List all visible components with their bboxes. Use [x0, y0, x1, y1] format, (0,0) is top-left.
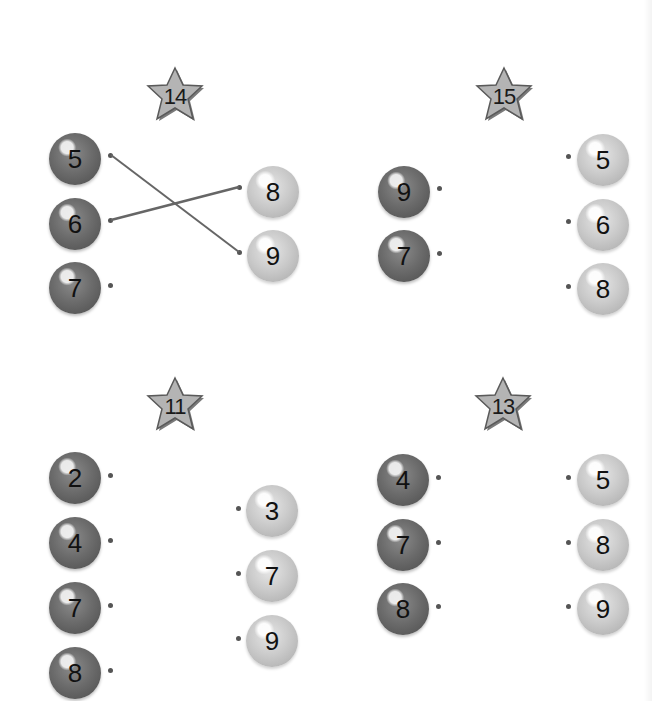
worksheet-page: 14 5 6 7 8 9 15 9 7 5 6 8 11 2 4 7	[0, 0, 652, 701]
target-star-11: 11	[143, 374, 207, 434]
left-dot[interactable]	[436, 475, 441, 480]
left-ball-7[interactable]: 7	[377, 519, 429, 571]
left-dot[interactable]	[108, 473, 113, 478]
right-ball-9[interactable]: 9	[246, 615, 298, 667]
left-ball-7[interactable]: 7	[49, 262, 101, 314]
target-star-13: 13	[471, 374, 535, 434]
right-ball-8[interactable]: 8	[577, 519, 629, 571]
left-ball-7[interactable]: 7	[378, 230, 430, 282]
left-dot[interactable]	[108, 603, 113, 608]
left-dot[interactable]	[436, 604, 441, 609]
right-dot[interactable]	[566, 475, 571, 480]
right-dot[interactable]	[236, 571, 241, 576]
right-dot[interactable]	[236, 636, 241, 641]
left-dot[interactable]	[436, 540, 441, 545]
target-number: 15	[472, 64, 536, 124]
left-ball-9[interactable]: 9	[378, 166, 430, 218]
right-dot[interactable]	[237, 250, 242, 255]
right-ball-8[interactable]: 8	[577, 263, 629, 315]
right-ball-8[interactable]: 8	[247, 166, 299, 218]
target-number: 14	[143, 64, 207, 124]
target-star-14: 14	[143, 64, 207, 124]
target-star-15: 15	[472, 64, 536, 124]
left-ball-8[interactable]: 8	[49, 647, 101, 699]
right-dot[interactable]	[566, 284, 571, 289]
left-ball-7[interactable]: 7	[49, 582, 101, 634]
right-ball-6[interactable]: 6	[577, 199, 629, 251]
right-dot[interactable]	[236, 506, 241, 511]
left-dot[interactable]	[437, 186, 442, 191]
left-ball-4[interactable]: 4	[377, 454, 429, 506]
left-dot[interactable]	[108, 538, 113, 543]
left-ball-5[interactable]: 5	[49, 133, 101, 185]
left-dot[interactable]	[437, 251, 442, 256]
right-dot[interactable]	[566, 219, 571, 224]
left-ball-8[interactable]: 8	[377, 583, 429, 635]
left-ball-6[interactable]: 6	[49, 198, 101, 250]
target-number: 13	[471, 374, 535, 434]
left-ball-2[interactable]: 2	[49, 452, 101, 504]
right-ball-5[interactable]: 5	[577, 454, 629, 506]
right-ball-3[interactable]: 3	[246, 485, 298, 537]
left-dot[interactable]	[108, 668, 113, 673]
target-number: 11	[143, 374, 207, 434]
right-dot[interactable]	[566, 154, 571, 159]
left-ball-4[interactable]: 4	[49, 517, 101, 569]
left-dot[interactable]	[108, 218, 113, 223]
left-dot[interactable]	[108, 283, 113, 288]
left-dot[interactable]	[108, 153, 113, 158]
right-ball-9[interactable]: 9	[577, 583, 629, 635]
connection-line-5-9	[111, 155, 239, 252]
right-dot[interactable]	[566, 540, 571, 545]
right-dot[interactable]	[566, 604, 571, 609]
right-dot[interactable]	[237, 185, 242, 190]
right-ball-9[interactable]: 9	[247, 230, 299, 282]
right-ball-7[interactable]: 7	[246, 550, 298, 602]
connection-line-6-8	[111, 187, 239, 220]
right-ball-5[interactable]: 5	[577, 134, 629, 186]
page-edge	[644, 0, 652, 701]
